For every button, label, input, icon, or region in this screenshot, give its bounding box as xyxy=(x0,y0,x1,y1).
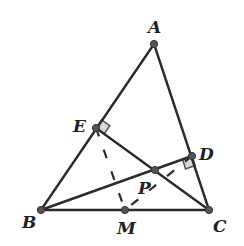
segment-DM xyxy=(125,156,192,210)
point-B xyxy=(37,206,44,213)
segment-EM xyxy=(96,128,125,210)
label-B: B xyxy=(21,212,36,232)
label-M: M xyxy=(116,218,137,238)
label-C: C xyxy=(213,216,227,236)
point-D xyxy=(188,152,195,159)
segment-AC xyxy=(154,44,209,210)
label-D: D xyxy=(198,144,214,164)
label-A: A xyxy=(146,17,161,37)
segment-BD xyxy=(41,156,192,210)
label-P: P xyxy=(137,178,152,198)
geometry-diagram: AEDPBMC xyxy=(0,0,244,246)
point-C xyxy=(205,206,212,213)
point-P xyxy=(151,166,158,173)
point-E xyxy=(92,124,99,131)
triangle-figure: AEDPBMC xyxy=(0,0,244,246)
point-A xyxy=(150,40,157,47)
point-M xyxy=(121,206,128,213)
label-E: E xyxy=(72,116,87,136)
